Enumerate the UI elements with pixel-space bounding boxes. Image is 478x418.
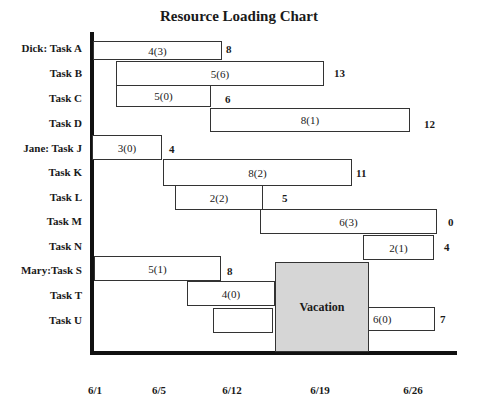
bar-text: 4(0)	[222, 288, 240, 300]
row-label-task-d: Task D	[0, 117, 82, 129]
bar-text: 8(1)	[301, 114, 319, 126]
bar-task-s: 5(1)	[94, 256, 221, 281]
slack-task-s: 8	[227, 265, 233, 277]
bar-task-j: 3(0)	[92, 135, 162, 160]
slack-task-n: 4	[444, 241, 450, 253]
bar-text: 5(0)	[154, 90, 172, 102]
row-label-task-k: Task K	[0, 166, 82, 178]
bar-text: 5(1)	[148, 263, 166, 275]
slack-task-u: 7	[440, 313, 446, 325]
bar-text: 2(2)	[210, 192, 228, 204]
bar-task-l: 2(2)	[175, 185, 263, 210]
chart-title: Resource Loading Chart	[0, 8, 478, 25]
slack-task-a: 8	[226, 43, 232, 55]
row-label-task-b: Task B	[0, 67, 82, 79]
bar-text: 4(3)	[148, 45, 166, 57]
slack-task-b: 13	[334, 67, 345, 79]
slack-task-c: 6	[225, 93, 231, 105]
bar-task-c: 5(0)	[116, 85, 211, 107]
bar-task-d: 8(1)	[210, 108, 410, 132]
bar-task-m: 6(3)	[260, 209, 437, 234]
bar-text: 6(3)	[339, 216, 357, 228]
y-axis-line	[90, 32, 94, 355]
row-label-task-l: Task L	[0, 191, 82, 203]
bar-task-n: 2(1)	[363, 235, 434, 260]
row-label-task-a: Dick: Task A	[0, 42, 82, 54]
x-tick-label: 6/19	[310, 384, 330, 396]
bar-task-b: 5(6)	[116, 61, 324, 86]
row-label-task-j: Jane: Task J	[0, 142, 82, 154]
bar-text: 8(2)	[248, 167, 266, 179]
vacation-block: Vacation	[275, 262, 369, 352]
bar-task-u-part1	[213, 308, 273, 333]
row-label-task-n: Task N	[0, 240, 82, 252]
bar-task-t: 4(0)	[187, 281, 275, 306]
slack-task-m: 0	[448, 216, 454, 228]
x-tick-label: 6/1	[88, 384, 102, 396]
slack-task-j: 4	[169, 143, 175, 155]
row-label-task-m: Task M	[0, 215, 82, 227]
bar-task-k: 8(2)	[163, 159, 352, 186]
slack-task-l: 5	[282, 192, 288, 204]
slack-task-k: 11	[356, 167, 366, 179]
bar-text: 6(0)	[373, 313, 391, 325]
slack-task-d: 12	[424, 118, 435, 130]
bar-text: 5(6)	[211, 68, 229, 80]
x-axis-line	[90, 351, 457, 355]
x-tick-label: 6/12	[222, 384, 242, 396]
bar-task-u-part2: 6(0)	[368, 307, 435, 331]
bar-text: 2(1)	[389, 242, 407, 254]
bar-task-a: 4(3)	[93, 41, 222, 60]
row-label-task-s: Mary:Task S	[0, 264, 82, 276]
bar-text: 3(0)	[118, 142, 136, 154]
row-label-task-c: Task C	[0, 92, 82, 104]
x-tick-label: 6/5	[152, 384, 166, 396]
vacation-label: Vacation	[300, 300, 345, 315]
x-tick-label: 6/26	[403, 384, 423, 396]
row-label-task-t: Task T	[0, 289, 82, 301]
row-label-task-u: Task U	[0, 314, 82, 326]
